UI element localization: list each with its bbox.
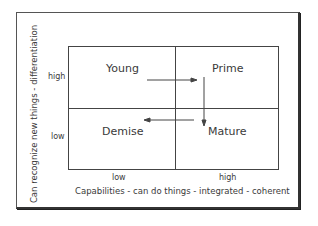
arrow-left-icon (144, 118, 194, 122)
arrow-down-icon (202, 77, 206, 126)
transition-arrows (0, 0, 318, 226)
arrow-right-icon (147, 78, 197, 82)
